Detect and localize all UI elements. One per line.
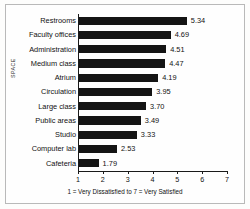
bar <box>79 31 171 39</box>
bar-row: Public areas3.49 <box>78 114 227 128</box>
bar-row: Administration4.51 <box>78 43 227 57</box>
x-axis-caption: 1 = Very Dissatisfied to 7 = Very Satisf… <box>0 188 250 195</box>
x-tick-label: 2 <box>96 175 110 184</box>
bar-value-label: 2.53 <box>121 144 135 153</box>
bar <box>79 45 166 53</box>
bar-row: Computer lab2.53 <box>78 142 227 156</box>
bar-value-label: 4.47 <box>169 59 183 68</box>
bar <box>79 116 141 124</box>
bar-value-label: 3.33 <box>141 130 155 139</box>
bar-category-label: Restrooms <box>40 16 76 25</box>
bar-row: Large class3.70 <box>78 100 227 114</box>
bar-row: Restrooms5.34 <box>78 14 227 28</box>
bar <box>79 145 117 153</box>
bar-category-label: Computer lab <box>32 144 76 153</box>
bar-category-label: Administration <box>29 45 76 54</box>
bar <box>79 102 146 110</box>
bar-row: Medium class4.47 <box>78 57 227 71</box>
bar-value-label: 3.70 <box>150 102 164 111</box>
x-tick <box>78 171 79 174</box>
bar-value-label: 3.95 <box>156 87 170 96</box>
chart-figure: SPACE Restrooms5.34Faculty offices4.69Ad… <box>0 0 250 209</box>
x-tick-label: 5 <box>170 175 184 184</box>
bar <box>79 17 187 25</box>
x-tick-label: 1 <box>71 175 85 184</box>
bar-row: Atrium4.19 <box>78 71 227 85</box>
x-tick <box>103 171 104 174</box>
x-tick <box>227 171 228 174</box>
bar <box>79 159 99 167</box>
x-tick-label: 6 <box>195 175 209 184</box>
bar-value-label: 4.19 <box>162 73 176 82</box>
bar-row: Faculty offices4.69 <box>78 28 227 42</box>
x-tick <box>202 171 203 174</box>
bar-value-label: 3.49 <box>145 116 159 125</box>
bar-category-label: Circulation <box>41 87 76 96</box>
bar-value-label: 4.69 <box>175 30 189 39</box>
x-tick-label: 3 <box>121 175 135 184</box>
bar <box>79 131 137 139</box>
bar-category-label: Studio <box>55 130 76 139</box>
bar-value-label: 5.34 <box>191 16 205 25</box>
bar <box>79 59 165 67</box>
bar-category-label: Cafeteria <box>46 159 76 168</box>
bar-value-label: 1.79 <box>103 159 117 168</box>
bar-category-label: Large class <box>38 102 76 111</box>
y-axis-title: SPACE <box>10 38 16 78</box>
x-tick <box>177 171 178 174</box>
bar-value-label: 4.51 <box>170 45 184 54</box>
bar <box>79 88 152 96</box>
bar-category-label: Faculty offices <box>29 30 76 39</box>
bar-category-label: Public areas <box>35 116 76 125</box>
bar-category-label: Atrium <box>55 73 76 82</box>
x-tick-label: 7 <box>220 175 234 184</box>
bar-category-label: Medium class <box>31 59 76 68</box>
x-tick-label: 4 <box>146 175 160 184</box>
plot-area: Restrooms5.34Faculty offices4.69Administ… <box>78 14 227 171</box>
bar <box>79 74 158 82</box>
x-tick <box>128 171 129 174</box>
bar-row: Studio3.33 <box>78 128 227 142</box>
bar-row: Circulation3.95 <box>78 85 227 99</box>
x-tick <box>153 171 154 174</box>
bar-row: Cafeteria1.79 <box>78 157 227 171</box>
